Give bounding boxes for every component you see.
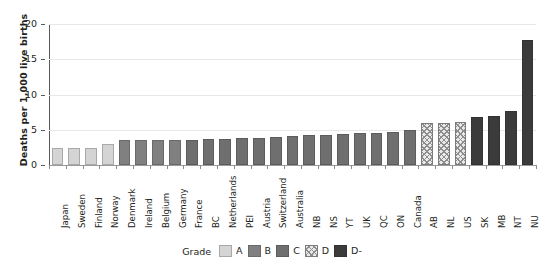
- x-tick-mark-17: [334, 165, 335, 169]
- bar-germany: [169, 140, 181, 165]
- x-tick-mark-6: [150, 165, 151, 169]
- bar-austria: [253, 138, 265, 165]
- y-tick-mark-20: [41, 24, 45, 25]
- legend-swatch-Dminus: [334, 245, 347, 257]
- x-axis-category-labels: JapanSwedenFinlandNorwayDenmarkIrelandBe…: [49, 170, 536, 232]
- x-tick-mark-25: [469, 165, 470, 169]
- bar-switzerland: [270, 137, 282, 165]
- bar-ab: [421, 123, 433, 165]
- x-tick-mark-26: [486, 165, 487, 169]
- x-label-austria: Austria: [263, 198, 272, 228]
- bar-japan: [52, 148, 64, 165]
- x-tick-mark-27: [502, 165, 503, 169]
- bar-nl: [438, 123, 450, 165]
- bar-france: [186, 140, 198, 165]
- bar-nt: [505, 111, 517, 165]
- bar-yt: [337, 134, 349, 165]
- x-label-nb: NB: [313, 216, 322, 228]
- legend-item-Dminus: D-: [334, 245, 362, 257]
- x-label-finland: Finland: [95, 197, 104, 228]
- chart-legend: Grade ABCDD-: [0, 243, 544, 259]
- bar-nu: [522, 40, 534, 165]
- legend-item-C: C: [276, 245, 300, 257]
- x-label-japan: Japan: [61, 204, 70, 228]
- bar-mb: [488, 116, 500, 165]
- x-tick-mark-18: [351, 165, 352, 169]
- x-tick-mark-21: [402, 165, 403, 169]
- legend-swatch-D: [305, 245, 318, 257]
- x-tick-mark-4: [116, 165, 117, 169]
- x-tick-mark-14: [284, 165, 285, 169]
- x-label-us: US: [464, 216, 473, 228]
- x-label-nt: NT: [514, 216, 523, 228]
- bar-nb: [303, 135, 315, 165]
- x-tick-mark-20: [385, 165, 386, 169]
- x-tick-mark-2: [83, 165, 84, 169]
- x-label-uk: UK: [363, 216, 372, 228]
- x-tick-mark-13: [267, 165, 268, 169]
- bar-us: [455, 122, 467, 165]
- x-label-ab: AB: [430, 216, 439, 228]
- x-label-sweden: Sweden: [78, 194, 87, 228]
- bar-canada: [404, 130, 416, 165]
- legend-label-A: A: [236, 245, 243, 257]
- x-tick-mark-8: [183, 165, 184, 169]
- x-label-yt: YT: [346, 218, 355, 229]
- x-tick-mark-10: [217, 165, 218, 169]
- x-label-qc: QC: [380, 215, 389, 228]
- x-label-switzerland: Switzerland: [279, 178, 288, 228]
- y-tick-mark-10: [41, 95, 45, 96]
- y-axis-tick-labels: 05101520: [0, 24, 45, 165]
- legend-label-D: D: [322, 245, 329, 257]
- x-tick-mark-7: [167, 165, 168, 169]
- x-tick-mark-23: [435, 165, 436, 169]
- y-tick-label-20: 20: [0, 19, 37, 29]
- bar-qc: [371, 133, 383, 165]
- x-tick-mark-22: [418, 165, 419, 169]
- x-tick-mark-end: [536, 165, 537, 169]
- legend-label-C: C: [293, 245, 300, 257]
- bar-on: [387, 132, 399, 165]
- bar-belgium: [152, 140, 164, 165]
- x-tick-mark-28: [519, 165, 520, 169]
- x-label-germany: Germany: [179, 189, 188, 229]
- y-tick-mark-5: [41, 130, 45, 131]
- legend-label-Dminus: D-: [351, 245, 362, 257]
- x-tick-mark-9: [200, 165, 201, 169]
- x-label-ns: NS: [330, 216, 339, 228]
- x-tick-mark-0: [49, 165, 50, 169]
- x-label-bc: BC: [212, 216, 221, 228]
- infant-mortality-bar-chart: Deaths per 1,000 live births 05101520 Ja…: [0, 0, 544, 271]
- x-tick-mark-11: [234, 165, 235, 169]
- x-label-australia: Australia: [296, 190, 305, 228]
- x-tick-mark-1: [66, 165, 67, 169]
- x-label-canada: Canada: [414, 195, 423, 228]
- x-tick-mark-24: [452, 165, 453, 169]
- y-tick-mark-0: [41, 165, 45, 166]
- legend-item-A: A: [219, 245, 243, 257]
- legend-item-D: D: [305, 245, 329, 257]
- x-tick-mark-15: [301, 165, 302, 169]
- bar-finland: [85, 148, 97, 165]
- x-label-pei: PEI: [246, 215, 255, 228]
- x-label-norway: Norway: [111, 195, 120, 228]
- y-tick-mark-15: [41, 59, 45, 60]
- x-tick-mark-19: [368, 165, 369, 169]
- x-label-france: France: [195, 199, 204, 228]
- bar-ns: [320, 135, 332, 165]
- legend-swatch-C: [276, 245, 289, 257]
- x-label-netherlands: Netherlands: [229, 176, 238, 228]
- x-tick-mark-5: [133, 165, 134, 169]
- x-label-belgium: Belgium: [162, 193, 171, 228]
- bar-netherlands: [219, 139, 231, 165]
- x-label-mb: MB: [498, 215, 507, 228]
- legend-label-B: B: [265, 245, 272, 257]
- x-tick-mark-16: [318, 165, 319, 169]
- bar-sweden: [68, 148, 80, 165]
- bar-sk: [471, 117, 483, 165]
- bar-bc: [203, 139, 215, 165]
- y-tick-label-10: 10: [0, 90, 37, 100]
- x-label-sk: SK: [481, 217, 490, 228]
- x-label-on: ON: [397, 215, 406, 228]
- bar-series: [49, 24, 536, 165]
